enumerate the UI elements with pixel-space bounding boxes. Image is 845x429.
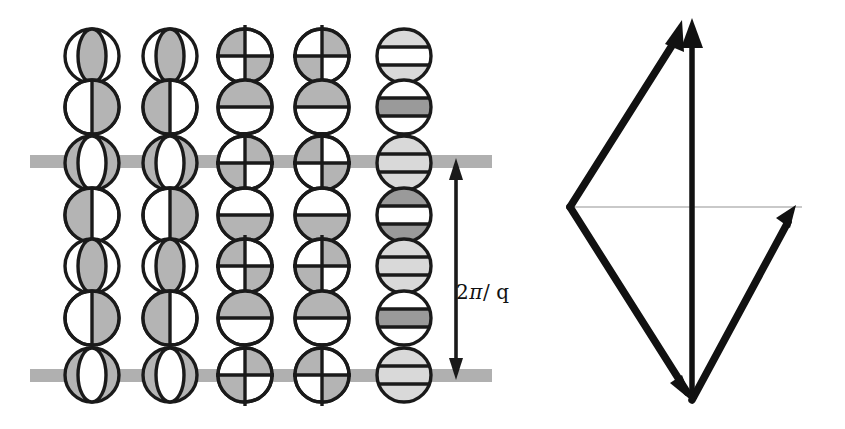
lattice-cell xyxy=(216,25,274,87)
lattice-cell xyxy=(377,239,431,293)
lattice-cell xyxy=(65,188,119,242)
lattice-cell xyxy=(65,80,119,134)
pi-symbol: π xyxy=(469,280,483,304)
lattice-cell xyxy=(218,291,272,345)
lattice-cell xyxy=(143,136,197,190)
helical-spin-lattice-panel: 2π/ q xyxy=(0,0,530,429)
lattice-cell xyxy=(218,80,272,134)
lattice-cell xyxy=(143,348,197,402)
lattice-cell xyxy=(216,344,274,406)
lattice-column-3 xyxy=(216,25,274,406)
lattice-cell xyxy=(377,80,431,134)
lattice-cell xyxy=(216,235,274,297)
lattice-cell xyxy=(293,344,351,406)
lattice-cell xyxy=(295,80,349,134)
lattice-cell xyxy=(216,132,274,194)
lattice-cell xyxy=(293,25,351,87)
lattice-cell xyxy=(143,188,197,242)
lattice-cell xyxy=(65,239,119,293)
lattice-cell xyxy=(293,235,351,297)
lattice-cell xyxy=(65,291,119,345)
period-double-arrow xyxy=(449,158,463,380)
period-label-q: q xyxy=(496,280,509,304)
scattering-vector-panel: q (hkl) Q 1 θ Q 2 xyxy=(530,0,845,429)
period-label-slash: / xyxy=(483,280,490,304)
lattice-cell xyxy=(377,29,431,83)
figure-root: 2π/ q xyxy=(0,0,845,429)
lattice-cell xyxy=(293,132,351,194)
lattice-cell xyxy=(295,188,349,242)
lattice-column-4 xyxy=(293,25,351,406)
q2-arrow-head xyxy=(776,205,796,228)
q-arrow-head xyxy=(681,18,703,48)
period-label: 2π/ q xyxy=(456,280,510,304)
lattice-cell xyxy=(218,188,272,242)
period-label-numerator: 2 xyxy=(456,280,469,304)
lattice-cell xyxy=(143,291,197,345)
lattice-cell xyxy=(377,136,431,190)
lattice-cell xyxy=(377,348,431,402)
lattice-svg xyxy=(0,0,530,429)
lattice-cell xyxy=(377,188,431,242)
lattice-column-2 xyxy=(143,29,197,402)
lattice-column-5 xyxy=(377,29,431,402)
lattice-cell xyxy=(65,136,119,190)
vector-svg xyxy=(530,0,845,429)
lattice-column-1 xyxy=(65,29,119,402)
q1-lower-segment xyxy=(570,207,692,401)
q-hkl-vector xyxy=(681,18,703,400)
lattice-cell xyxy=(143,29,197,83)
lattice-cell xyxy=(377,291,431,345)
lattice-cell xyxy=(295,291,349,345)
lattice-cell xyxy=(65,348,119,402)
q2-vector xyxy=(692,205,796,400)
lattice-cell xyxy=(65,29,119,83)
q1-upper-segment xyxy=(570,20,684,207)
lattice-cell xyxy=(143,80,197,134)
lattice-cell xyxy=(143,239,197,293)
